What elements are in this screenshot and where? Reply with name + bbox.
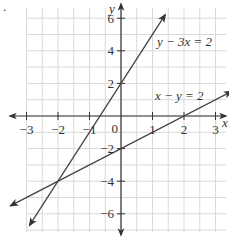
y-tick-label: −6 (100, 206, 114, 221)
y-axis-name: y (107, 1, 115, 16)
bullet-mark: . (3, 0, 6, 14)
y-tick-label: −2 (100, 141, 114, 156)
x-tick-label: 1 (149, 122, 156, 137)
x-tick-label: −1 (83, 122, 97, 137)
x-tick-label: 2 (181, 122, 188, 137)
origin-label: 0 (112, 121, 119, 136)
x-axis-name: x (221, 115, 228, 130)
x-tick-label: 3 (212, 122, 219, 137)
y-tick-label: 4 (108, 43, 115, 58)
coordinate-plane: −3−2−1123−6−4−22460 . y − 3x = 2 x − y =… (0, 0, 229, 237)
line-label-x-minus-y: x − y = 2 (154, 88, 204, 103)
line-y-minus-3x-equals-2 (30, 15, 165, 225)
y-tick-label: 2 (108, 76, 115, 91)
x-tick-label: −2 (51, 122, 65, 137)
y-tick-label: −4 (100, 174, 114, 189)
line-label-y-minus-3x: y − 3x = 2 (155, 34, 213, 49)
x-tick-label: −3 (20, 122, 34, 137)
